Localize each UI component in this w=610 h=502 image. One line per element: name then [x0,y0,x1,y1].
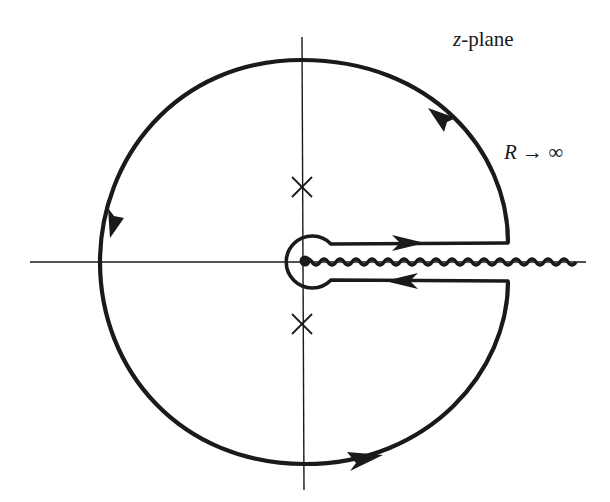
z-variable: z [453,27,461,51]
arrow-bottom-icon [347,452,383,471]
pole-lower-cross-icon [292,314,312,334]
arrow-left-icon [108,208,124,238]
branch-cut-wavy-line [304,259,576,265]
branch-point-dot [300,256,311,267]
contour-diagram [0,0,610,502]
radius-limit-label: R → ∞ [504,140,563,165]
z-plane-label: z-plane [453,27,514,52]
arrow-upper-right-icon [428,108,456,132]
arrow-symbol: → [522,140,543,164]
infinity-symbol: ∞ [548,140,563,164]
plane-suffix: -plane [461,27,513,51]
radius-variable: R [504,140,517,164]
